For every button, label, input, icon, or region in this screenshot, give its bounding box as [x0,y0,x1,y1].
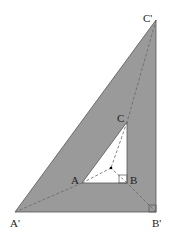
label-b: B [130,174,137,186]
label-b-prime: B' [152,217,161,229]
label-a: A [71,174,79,186]
center-point [110,167,113,170]
similar-triangles-diagram: C' C A B A' B' [0,0,174,240]
label-c: C [117,112,124,124]
label-c-prime: C' [143,12,152,24]
label-a-prime: A' [10,217,20,229]
